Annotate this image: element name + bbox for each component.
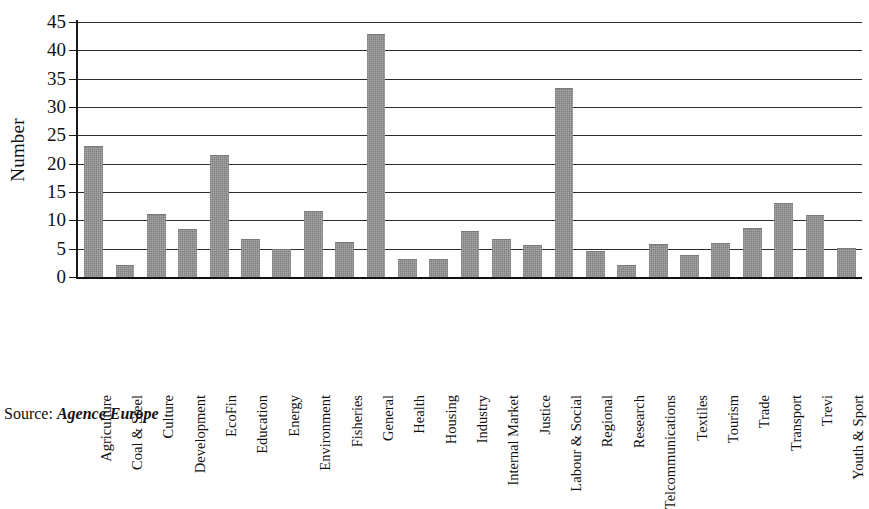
x-axis-label: Trevi (799, 281, 830, 399)
x-axis-label: Internal Market (486, 281, 517, 399)
x-axis-label-text: Education (255, 395, 270, 454)
bar (806, 215, 825, 277)
bar (680, 255, 699, 277)
y-tick-mark (69, 50, 78, 51)
bar (555, 88, 574, 277)
x-axis-label-text: Regional (600, 395, 615, 447)
bar (837, 248, 856, 277)
bar (178, 229, 197, 277)
x-axis-label-text: Internal Market (506, 395, 521, 486)
bar (116, 265, 135, 277)
bar (272, 249, 291, 277)
bar (367, 34, 386, 277)
y-tick-mark (69, 164, 78, 165)
y-tick-mark (69, 192, 78, 193)
x-axis-label: Coal & Steel (109, 281, 140, 399)
x-axis-label-text: Trevi (820, 395, 835, 426)
bar (398, 259, 417, 277)
x-axis-label: Telcommunications (642, 281, 673, 399)
bar (429, 259, 448, 277)
x-axis-label: Youth & Sport (831, 281, 862, 399)
y-tick-label: 40 (24, 40, 66, 59)
bar (210, 155, 229, 277)
x-axis-label: Research (611, 281, 642, 399)
y-tick-mark (69, 135, 78, 136)
x-axis-label-text: Tourism (726, 395, 741, 443)
x-axis-label: Regional (580, 281, 611, 399)
x-axis-label: Justice (517, 281, 548, 399)
x-axis-label: Tourism (705, 281, 736, 399)
y-tick-label: 25 (24, 125, 66, 144)
x-axis-label-text: Environment (318, 395, 333, 471)
x-axis-label-text: Energy (287, 395, 302, 437)
bar (711, 243, 730, 277)
x-axis-label-text: Trade (757, 395, 772, 428)
bar (523, 245, 542, 277)
y-tick-label: 45 (24, 12, 66, 31)
x-axis-label: Environment (298, 281, 329, 399)
x-axis-label-text: Health (412, 395, 427, 434)
x-axis-label: Transport (768, 281, 799, 399)
x-axis-label: Industry (454, 281, 485, 399)
y-tick-mark (69, 277, 78, 278)
y-tick-mark (69, 22, 78, 23)
bar (84, 146, 103, 277)
x-axis-label-text: Textiles (695, 395, 710, 441)
x-axis-label-text: Culture (161, 395, 176, 439)
y-tick-mark (69, 79, 78, 80)
y-tick-label: 0 (24, 267, 66, 286)
bar (304, 211, 323, 277)
x-axis-label: Fisheries (329, 281, 360, 399)
x-axis-label: General (360, 281, 391, 399)
y-axis-ticks: 454035302520151050 (0, 0, 66, 300)
y-tick-label: 35 (24, 69, 66, 88)
x-axis-line (76, 277, 862, 279)
x-axis-label-text: General (381, 395, 396, 441)
y-tick-mark (69, 107, 78, 108)
y-tick-label: 20 (24, 154, 66, 173)
x-axis-label: Education (235, 281, 266, 399)
x-axis-label-text: Housing (444, 395, 459, 444)
x-axis-label-text: Youth & Sport (851, 395, 866, 480)
x-axis-label: Textiles (674, 281, 705, 399)
x-axis-label: Trade (737, 281, 768, 399)
x-axis-label-text: Labour & Social (569, 395, 584, 492)
bar (649, 244, 668, 277)
x-axis-label-text: Development (193, 395, 208, 473)
y-tick-mark (69, 220, 78, 221)
bar (492, 239, 511, 277)
x-axis-label: Culture (141, 281, 172, 399)
x-axis-label-text: Transport (789, 395, 804, 451)
x-axis-label-text: Justice (538, 395, 553, 434)
bar-series (78, 22, 862, 277)
y-tick-label: 15 (24, 182, 66, 201)
x-axis-label: Housing (423, 281, 454, 399)
y-tick-mark (69, 249, 78, 250)
bar (241, 239, 260, 277)
x-axis-label: Energy (266, 281, 297, 399)
bar (743, 228, 762, 277)
x-axis-label-text: Industry (475, 395, 490, 443)
bar (774, 203, 793, 277)
y-tick-label: 10 (24, 210, 66, 229)
x-axis-label: EcoFin (203, 281, 234, 399)
y-tick-label: 5 (24, 239, 66, 258)
x-axis-label: Labour & Social (548, 281, 579, 399)
bar (335, 242, 354, 277)
x-axis-label-text: Fisheries (350, 395, 365, 447)
x-axis-label: Development (172, 281, 203, 399)
x-axis-labels: AgricultureCoal & SteelCultureDevelopmen… (78, 281, 862, 401)
source-label: Source: (4, 405, 53, 422)
x-axis-label-text: Research (632, 395, 647, 448)
x-axis-label: Health (392, 281, 423, 399)
x-axis-label-text: EcoFin (224, 395, 239, 437)
x-axis-label: Agriculture (78, 281, 109, 399)
source-value: Agence Europe (57, 405, 159, 422)
bar (147, 214, 166, 277)
x-axis-label-text: Telcommunications (663, 395, 678, 509)
y-tick-label: 30 (24, 97, 66, 116)
source-caption: Source: Agence Europe (4, 405, 159, 423)
bar (617, 265, 636, 277)
bar (586, 251, 605, 278)
